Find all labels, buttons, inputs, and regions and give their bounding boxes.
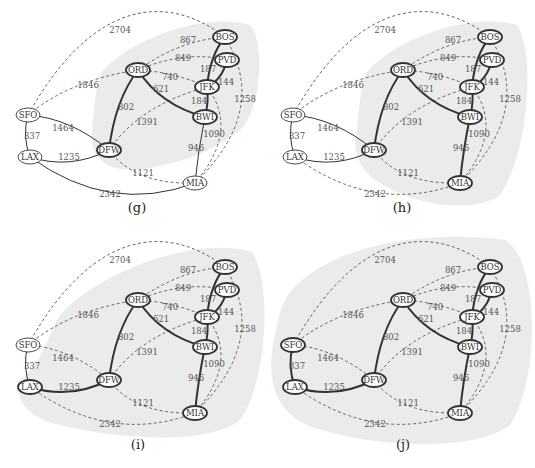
node-bwi: BWI bbox=[458, 110, 482, 124]
svg-text:LAX: LAX bbox=[21, 152, 40, 162]
svg-text:BOS: BOS bbox=[215, 262, 234, 272]
svg-text:MIA: MIA bbox=[451, 178, 470, 188]
node-mia: MIA bbox=[183, 406, 207, 420]
edge-weight-label: 1235 bbox=[58, 152, 80, 162]
edge-weight-label: 740 bbox=[427, 72, 443, 82]
svg-text:MIA: MIA bbox=[451, 408, 470, 418]
edge-weight-label: 1090 bbox=[468, 359, 490, 369]
edge-weight-label: 1121 bbox=[132, 398, 154, 408]
edge-weight-label: 187 bbox=[200, 294, 216, 304]
svg-text:MIA: MIA bbox=[186, 178, 205, 188]
edge-weight-label: 621 bbox=[418, 84, 434, 94]
edge-weight-label: 1235 bbox=[58, 382, 80, 392]
node-jfk: JFK bbox=[460, 80, 484, 94]
edge-weight-label: 184 bbox=[191, 326, 207, 336]
edge-weight-label: 946 bbox=[453, 143, 469, 153]
node-dfw: DFW bbox=[362, 373, 386, 387]
svg-text:JFK: JFK bbox=[198, 312, 215, 322]
edge-weight-label: 1121 bbox=[397, 168, 419, 178]
svg-text:MIA: MIA bbox=[186, 408, 205, 418]
svg-text:JFK: JFK bbox=[463, 82, 480, 92]
node-bos: BOS bbox=[478, 30, 502, 44]
svg-text:ORD: ORD bbox=[393, 295, 413, 305]
edge-weight-label: 946 bbox=[453, 373, 469, 383]
edge-weight-label: 621 bbox=[418, 314, 434, 324]
svg-text:DFW: DFW bbox=[363, 375, 385, 385]
edge-weight-label: 2704 bbox=[374, 255, 396, 265]
svg-text:BOS: BOS bbox=[480, 262, 499, 272]
edge-weight-label: 740 bbox=[162, 72, 178, 82]
edge-weight-label: 337 bbox=[289, 131, 305, 141]
shaded-region bbox=[20, 248, 265, 438]
edge-weight-label: 1258 bbox=[234, 324, 256, 334]
node-ord: ORD bbox=[391, 293, 415, 307]
svg-text:SFO: SFO bbox=[19, 110, 38, 120]
edge-weight-label: 802 bbox=[383, 102, 399, 112]
edge-weight-label: 1258 bbox=[499, 94, 521, 104]
edge-weight-label: 2342 bbox=[364, 189, 386, 199]
panel-caption: (j) bbox=[383, 437, 423, 452]
node-bos: BOS bbox=[213, 260, 237, 274]
svg-text:LAX: LAX bbox=[286, 152, 305, 162]
node-sfo: SFO bbox=[16, 108, 40, 122]
edge-weight-label: 144 bbox=[218, 307, 234, 317]
edge-weight-label: 802 bbox=[118, 102, 134, 112]
graph-j: 2704184633714641235234280213911121867849… bbox=[265, 230, 533, 464]
edge-weight-label: 740 bbox=[427, 302, 443, 312]
node-mia: MIA bbox=[183, 176, 207, 190]
node-ord: ORD bbox=[126, 293, 150, 307]
svg-text:DFW: DFW bbox=[363, 145, 385, 155]
edge-weight-label: 849 bbox=[175, 283, 191, 293]
svg-text:DFW: DFW bbox=[98, 145, 120, 155]
edge-weight-label: 184 bbox=[456, 96, 472, 106]
node-pvd: PVD bbox=[480, 53, 504, 67]
node-dfw: DFW bbox=[97, 143, 121, 157]
graph-g: 2704184633714641235234280213911121867849… bbox=[0, 0, 268, 234]
node-sfo: SFO bbox=[281, 108, 305, 122]
node-dfw: DFW bbox=[362, 143, 386, 157]
node-bos: BOS bbox=[478, 260, 502, 274]
svg-text:SFO: SFO bbox=[19, 340, 38, 350]
edge-weight-label: 1464 bbox=[317, 353, 339, 363]
svg-text:ORD: ORD bbox=[128, 65, 148, 75]
edge-weight-label: 867 bbox=[445, 265, 461, 275]
node-dfw: DFW bbox=[97, 373, 121, 387]
node-jfk: JFK bbox=[195, 80, 219, 94]
edge-weight-label: 802 bbox=[383, 332, 399, 342]
svg-text:BWI: BWI bbox=[461, 112, 479, 122]
edge-weight-label: 1258 bbox=[234, 94, 256, 104]
graph-i: 2704184633714641235234280213911121867849… bbox=[0, 230, 268, 464]
svg-text:JFK: JFK bbox=[198, 82, 215, 92]
edge-weight-label: 1464 bbox=[52, 123, 74, 133]
edge-weight-label: 1121 bbox=[132, 168, 154, 178]
edge-weight-label: 849 bbox=[440, 283, 456, 293]
svg-text:LAX: LAX bbox=[21, 382, 40, 392]
svg-text:PVD: PVD bbox=[218, 285, 237, 295]
edge-weight-label: 1121 bbox=[397, 398, 419, 408]
node-bos: BOS bbox=[213, 30, 237, 44]
edge-weight-label: 1090 bbox=[203, 129, 225, 139]
node-mia: MIA bbox=[448, 176, 472, 190]
node-sfo: SFO bbox=[281, 338, 305, 352]
edge-weight-label: 2704 bbox=[109, 255, 131, 265]
edge-weight-label: 2342 bbox=[99, 189, 121, 199]
edge-weight-label: 867 bbox=[180, 265, 196, 275]
node-lax: LAX bbox=[283, 150, 307, 164]
edge-weight-label: 187 bbox=[200, 64, 216, 74]
panel-g: 2704184633714641235234280213911121867849… bbox=[0, 0, 268, 234]
edge-weight-label: 1235 bbox=[323, 382, 345, 392]
edge-weight-label: 144 bbox=[483, 307, 499, 317]
panel-i: 2704184633714641235234280213911121867849… bbox=[0, 230, 268, 464]
node-ord: ORD bbox=[391, 63, 415, 77]
svg-text:JFK: JFK bbox=[463, 312, 480, 322]
edge-weight-label: 187 bbox=[465, 294, 481, 304]
edge-weight-label: 1846 bbox=[77, 310, 99, 320]
panel-caption: (g) bbox=[117, 200, 157, 215]
node-sfo: SFO bbox=[16, 338, 40, 352]
svg-text:PVD: PVD bbox=[218, 55, 237, 65]
edge-weight-label: 867 bbox=[180, 35, 196, 45]
edge-weight-label: 1391 bbox=[401, 117, 423, 127]
edge-weight-label: 1258 bbox=[499, 324, 521, 334]
svg-text:ORD: ORD bbox=[393, 65, 413, 75]
node-bwi: BWI bbox=[193, 340, 217, 354]
